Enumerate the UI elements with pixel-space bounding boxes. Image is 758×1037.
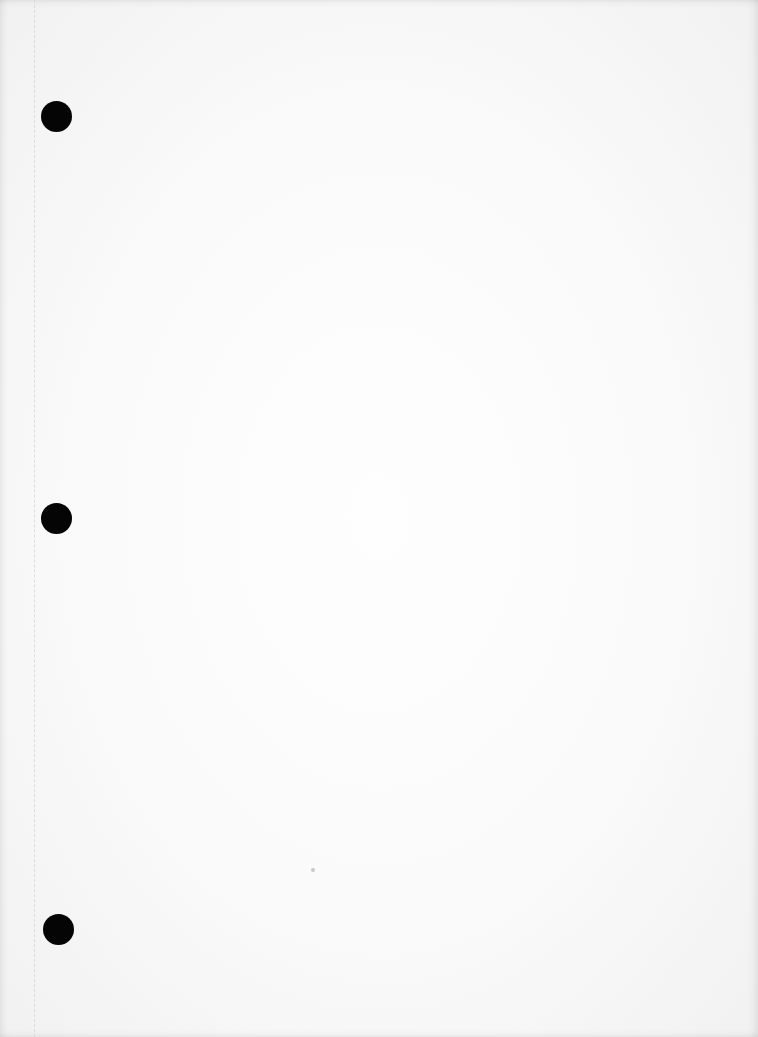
- blank-paper-sheet: [0, 0, 758, 1037]
- margin-line: [34, 0, 35, 1037]
- punch-hole-middle: [41, 503, 72, 534]
- paper-speck: [311, 868, 315, 872]
- punch-hole-top: [41, 101, 72, 132]
- punch-hole-bottom: [43, 914, 74, 945]
